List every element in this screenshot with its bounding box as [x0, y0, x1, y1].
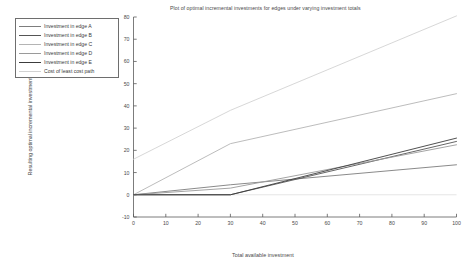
- legend-item[interactable]: Cost of least cost path: [19, 67, 118, 76]
- legend-item-label: Investment in edge E: [44, 60, 92, 65]
- legend-color-swatch: [19, 53, 41, 54]
- figure-canvas: Plot of optimal incremental investments …: [0, 0, 475, 270]
- legend-item-label: Investment in edge D: [44, 51, 92, 56]
- series-line-5: [134, 16, 457, 159]
- legend-color-swatch: [19, 62, 41, 63]
- legend-item[interactable]: Investment in edge C: [19, 40, 118, 49]
- x-tick-label: 100: [450, 220, 464, 226]
- x-tick-label: 40: [256, 220, 270, 226]
- x-tick-label: 70: [353, 220, 367, 226]
- legend-item[interactable]: Investment in edge A: [19, 22, 118, 31]
- y-tick-label: 10: [116, 170, 130, 176]
- legend-color-swatch: [19, 26, 41, 27]
- series-line-4: [134, 138, 457, 195]
- x-tick-label: 50: [288, 220, 302, 226]
- legend-item[interactable]: Investment in edge D: [19, 49, 118, 58]
- legend-color-swatch: [19, 35, 41, 36]
- y-tick-label: 20: [116, 147, 130, 153]
- legend-item-label: Investment in edge B: [44, 33, 92, 38]
- legend-item-label: Investment in edge A: [44, 24, 92, 29]
- chart-title: Plot of optimal incremental investments …: [170, 5, 440, 11]
- x-tick-label: 20: [191, 220, 205, 226]
- x-tick-label: 80: [385, 220, 399, 226]
- series-line-3: [134, 145, 457, 195]
- y-tick-label: 50: [116, 81, 130, 87]
- x-tick-label: 60: [320, 220, 334, 226]
- legend-color-swatch: [19, 71, 41, 72]
- chart-legend[interactable]: Investment in edge AInvestment in edge B…: [15, 18, 119, 78]
- legend-item-label: Investment in edge C: [44, 42, 92, 47]
- legend-item[interactable]: Investment in edge B: [19, 31, 118, 40]
- y-tick-label: 0: [116, 192, 130, 198]
- y-tick-label: 40: [116, 103, 130, 109]
- series-line-1: [134, 141, 457, 194]
- x-tick-label: 90: [417, 220, 431, 226]
- x-tick-label: 0: [127, 220, 141, 226]
- x-tick-label: 30: [223, 220, 237, 226]
- x-tick-label: 10: [159, 220, 173, 226]
- y-tick-label: 30: [116, 125, 130, 131]
- x-axis-label: Total available investment: [232, 252, 294, 258]
- legend-item[interactable]: Investment in edge E: [19, 58, 118, 67]
- legend-color-swatch: [19, 44, 41, 45]
- legend-item-label: Cost of least cost path: [44, 69, 94, 74]
